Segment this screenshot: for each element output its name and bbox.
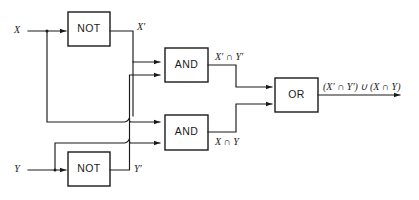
gate-and-top-label: AND: [175, 58, 198, 70]
label-signal-x-prime: X′: [136, 21, 146, 32]
label-signal-and-bottom-out: X ∩ Y: [214, 136, 240, 147]
wire-and-bottom-to-or: [208, 104, 272, 132]
label-output-expression: (X′ ∩ Y′) ∪ (X ∩ Y): [323, 81, 401, 93]
logic-circuit-diagram: NOT NOT AND AND OR X Y X′ Y′ X′ ∩ Y′ X ∩: [0, 0, 419, 200]
gate-or-label: OR: [288, 88, 305, 100]
wire-and-top-to-or: [208, 65, 272, 87]
gate-not-y-label: NOT: [77, 162, 101, 174]
label-input-y: Y: [14, 163, 21, 174]
gate-not-x-label: NOT: [77, 22, 101, 34]
gate-and-bottom-label: AND: [175, 125, 198, 137]
wire-xprime-to-and-top: [110, 31, 160, 62]
label-signal-y-prime: Y′: [134, 163, 143, 174]
circuit-canvas: NOT NOT AND AND OR X Y X′ Y′ X′ ∩ Y′ X ∩: [0, 0, 419, 200]
label-signal-and-top-out: X′ ∩ Y′: [214, 51, 244, 62]
label-input-x: X: [13, 24, 21, 35]
